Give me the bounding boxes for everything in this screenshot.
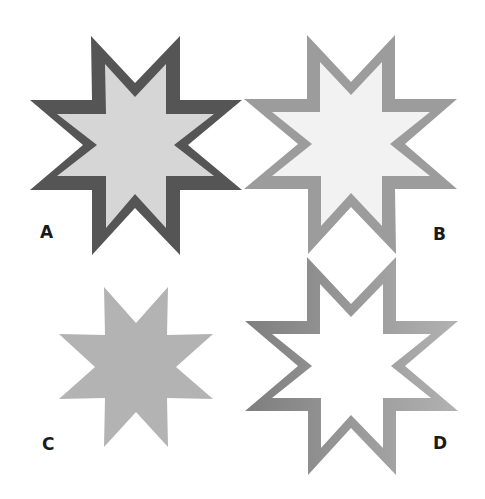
label-c: C	[42, 434, 54, 454]
star-b	[244, 35, 457, 254]
star-c	[59, 287, 213, 447]
label-b: B	[433, 224, 446, 244]
star-comparison-figure: A B C D	[0, 0, 485, 499]
label-a: A	[40, 222, 54, 242]
star-c-fill	[59, 287, 213, 447]
label-d: D	[433, 433, 447, 453]
star-d	[245, 257, 458, 475]
star-a	[30, 36, 242, 255]
